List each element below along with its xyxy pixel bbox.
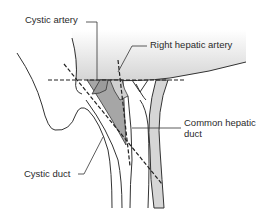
hepatic-duct-branch xyxy=(136,84,146,100)
label-right-hepatic-artery: Right hepatic artery xyxy=(150,39,232,50)
common-hepatic-duct-tube xyxy=(149,80,168,208)
anatomy-illustration xyxy=(0,0,278,212)
label-cystic-artery: Cystic artery xyxy=(25,14,78,25)
label-common-hepatic-duct-line1: Common hepatic xyxy=(184,117,256,128)
hepatic-duct-inner xyxy=(140,100,149,208)
calot-triangle-diagram: Cystic artery Right hepatic artery Commo… xyxy=(0,0,278,212)
left-hepatic-duct xyxy=(132,80,148,92)
liver-region xyxy=(72,30,246,81)
label-common-hepatic-duct-line2: duct xyxy=(184,128,256,139)
label-common-hepatic-duct: Common hepatic duct xyxy=(184,117,256,139)
label-cystic-duct: Cystic duct xyxy=(24,168,70,179)
leader-cystic-duct xyxy=(78,137,103,174)
